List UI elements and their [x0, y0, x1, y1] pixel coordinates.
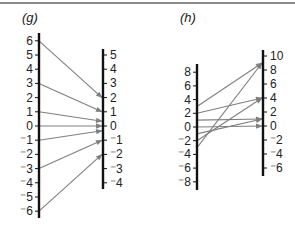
right-tick-label: ⁻3: [110, 162, 123, 176]
left-tick-label: ⁻2: [178, 134, 191, 148]
left-tick-label: 5: [26, 48, 33, 62]
left-tick-label: ⁻4: [178, 147, 191, 161]
left-tick-label: 0: [184, 120, 191, 134]
left-tick-label: ⁻2: [20, 147, 33, 161]
mapping-arrow: [39, 140, 102, 168]
left-tick-label: 3: [26, 76, 33, 90]
diagram-title: (h): [180, 10, 196, 25]
diagram-g: (g)6543210⁻1⁻2⁻3⁻4⁻5⁻6543210⁻1⁻2⁻3⁻4: [20, 10, 123, 218]
right-tick-label: 10: [270, 49, 284, 63]
right-tick-label: ⁻1: [110, 133, 123, 147]
left-tick-label: ⁻6: [20, 204, 33, 218]
right-tick-label: ⁻2: [110, 147, 123, 161]
left-tick-label: 6: [184, 79, 191, 93]
mapping-arrow: [197, 63, 262, 148]
right-tick-label: ⁻2: [270, 133, 283, 147]
mapping-arrow: [39, 41, 102, 98]
right-tick-label: 0: [270, 119, 277, 133]
mapping-arrow: [39, 154, 102, 211]
left-tick-label: ⁻3: [20, 162, 33, 176]
right-tick-label: 8: [270, 63, 277, 77]
diagram-title: (g): [22, 10, 38, 25]
left-tick-label: ⁻5: [20, 190, 33, 204]
mapping-diagrams: (g)6543210⁻1⁻2⁻3⁻4⁻5⁻6543210⁻1⁻2⁻3⁻4(h)8…: [0, 0, 295, 236]
left-tick-label: 0: [26, 119, 33, 133]
left-tick-label: 2: [184, 106, 191, 120]
left-tick-label: ⁻1: [20, 133, 33, 147]
left-tick-label: ⁻4: [20, 176, 33, 190]
left-tick-label: 4: [26, 62, 33, 76]
right-tick-label: 4: [110, 62, 117, 76]
left-tick-label: 2: [26, 91, 33, 105]
left-tick-label: 8: [184, 65, 191, 79]
right-tick-label: 0: [110, 119, 117, 133]
mapping-arrow: [39, 131, 102, 140]
left-tick-label: 6: [26, 34, 33, 48]
left-tick-label: ⁻8: [178, 175, 191, 189]
right-tick-label: ⁻6: [270, 161, 283, 175]
right-tick-label: 2: [270, 105, 277, 119]
left-tick-label: ⁻6: [178, 161, 191, 175]
right-tick-label: 4: [270, 91, 277, 105]
mapping-arrow: [39, 112, 102, 121]
diagram-h: (h)86420⁻2⁻4⁻6⁻81086420⁻2⁻4⁻6: [178, 10, 283, 190]
left-tick-label: 1: [26, 105, 33, 119]
right-tick-label: 5: [110, 48, 117, 62]
right-tick-label: ⁻4: [270, 147, 283, 161]
right-tick-label: 3: [110, 76, 117, 90]
left-tick-label: 4: [184, 93, 191, 107]
right-tick-label: 1: [110, 105, 117, 119]
mapping-arrow: [39, 83, 102, 111]
right-tick-label: 2: [110, 91, 117, 105]
right-tick-label: ⁻4: [110, 176, 123, 190]
right-tick-label: 6: [270, 77, 277, 91]
